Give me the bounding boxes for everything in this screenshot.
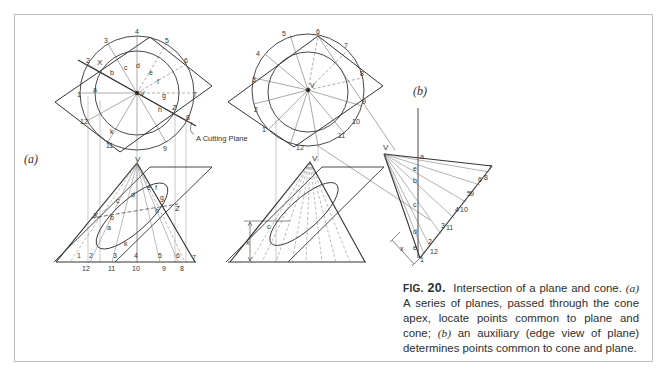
- svg-text:7: 7: [488, 164, 492, 171]
- svg-text:10: 10: [132, 265, 140, 272]
- svg-text:a: a: [107, 224, 111, 231]
- svg-text:12: 12: [430, 248, 438, 255]
- svg-text:8: 8: [180, 265, 184, 272]
- top-view-b: 456 789 101112 321 V: [228, 28, 430, 220]
- svg-text:1: 1: [262, 126, 266, 133]
- svg-text:7: 7: [193, 91, 197, 98]
- svg-text:Z: Z: [172, 103, 177, 112]
- svg-text:7: 7: [344, 42, 348, 49]
- auxiliary-view-b: V aeb cde 765 4321 8910 1112 x: [383, 108, 492, 266]
- front-view-a: V XZ 123 4567 121110 98 abc def ghk: [54, 155, 212, 272]
- svg-text:V: V: [383, 143, 389, 152]
- svg-text:2: 2: [254, 106, 258, 113]
- svg-text:V: V: [310, 82, 315, 89]
- svg-text:k: k: [110, 128, 114, 135]
- svg-text:3: 3: [104, 37, 108, 44]
- svg-text:9: 9: [362, 98, 366, 105]
- svg-text:x: x: [400, 245, 404, 252]
- svg-text:6: 6: [176, 252, 180, 259]
- svg-text:c: c: [267, 223, 271, 230]
- svg-text:5: 5: [165, 37, 169, 44]
- svg-text:10: 10: [460, 206, 468, 213]
- svg-text:h: h: [158, 106, 162, 113]
- svg-text:d: d: [136, 62, 140, 69]
- svg-text:12: 12: [296, 144, 304, 151]
- svg-text:6: 6: [478, 176, 482, 183]
- svg-text:x: x: [246, 239, 250, 246]
- svg-text:d: d: [131, 191, 135, 198]
- svg-text:1: 1: [77, 252, 81, 259]
- svg-text:4: 4: [134, 252, 138, 259]
- svg-text:8: 8: [360, 70, 364, 77]
- front-view-b: V x c: [226, 154, 384, 262]
- svg-text:5: 5: [158, 252, 162, 259]
- subfigure-label-a: (a): [24, 152, 38, 167]
- svg-text:11: 11: [108, 265, 115, 272]
- svg-text:6: 6: [184, 57, 188, 64]
- svg-text:e: e: [147, 184, 151, 191]
- svg-text:k: k: [124, 240, 128, 247]
- subfigure-label-b: (b): [413, 84, 427, 99]
- svg-text:9: 9: [162, 265, 166, 272]
- svg-text:c: c: [116, 197, 120, 204]
- svg-text:e: e: [413, 244, 417, 251]
- svg-text:7: 7: [192, 254, 196, 261]
- caption-a-label: (a): [626, 282, 639, 294]
- svg-text:8: 8: [186, 114, 190, 121]
- svg-text:V: V: [312, 154, 318, 163]
- svg-text:11: 11: [106, 142, 113, 149]
- svg-text:4: 4: [256, 50, 260, 57]
- svg-text:8: 8: [484, 174, 488, 181]
- figure-number: FIG. 20.: [403, 283, 446, 294]
- svg-text:A Cutting Plane: A Cutting Plane: [196, 134, 248, 143]
- svg-text:5: 5: [282, 30, 286, 37]
- svg-text:1: 1: [77, 91, 81, 98]
- svg-text:g: g: [160, 194, 164, 202]
- svg-text:9: 9: [470, 190, 474, 197]
- svg-text:X: X: [97, 58, 103, 67]
- svg-text:12: 12: [82, 265, 90, 272]
- svg-text:11: 11: [446, 224, 453, 231]
- svg-text:a: a: [420, 153, 424, 160]
- svg-text:d: d: [413, 228, 417, 235]
- svg-text:11: 11: [338, 132, 345, 139]
- svg-text:6: 6: [316, 28, 320, 35]
- svg-text:2: 2: [428, 238, 432, 245]
- svg-text:V: V: [135, 155, 141, 164]
- top-view-a: 432 11211 567 89 XZ V abc def ghk A Cutt…: [55, 28, 248, 152]
- svg-text:V: V: [140, 90, 145, 97]
- svg-text:b: b: [110, 69, 114, 76]
- svg-text:9: 9: [163, 145, 167, 152]
- svg-text:10: 10: [352, 118, 360, 125]
- svg-text:h: h: [155, 207, 159, 214]
- svg-text:4: 4: [135, 28, 139, 35]
- svg-text:12: 12: [80, 118, 88, 125]
- svg-text:g: g: [162, 92, 166, 100]
- caption-b-label: (b): [438, 327, 451, 339]
- svg-text:2: 2: [89, 252, 93, 259]
- svg-text:2: 2: [86, 57, 90, 64]
- svg-text:4: 4: [455, 206, 459, 213]
- svg-text:e: e: [149, 69, 153, 76]
- svg-text:c: c: [124, 64, 128, 71]
- svg-text:e: e: [413, 165, 417, 172]
- svg-text:3: 3: [441, 222, 445, 229]
- svg-text:c: c: [413, 201, 417, 208]
- figure-caption: FIG. 20. Intersection of a plane and con…: [403, 281, 639, 356]
- svg-text:f: f: [157, 78, 159, 85]
- svg-text:3: 3: [252, 76, 256, 83]
- svg-text:f: f: [155, 184, 157, 191]
- svg-text:X: X: [93, 211, 99, 220]
- svg-text:b: b: [110, 214, 114, 221]
- caption-title: Intersection of a plane and cone.: [453, 282, 622, 294]
- svg-text:3: 3: [113, 252, 117, 259]
- svg-text:Z: Z: [175, 204, 180, 213]
- svg-text:1: 1: [420, 256, 424, 263]
- svg-text:a: a: [93, 86, 97, 93]
- svg-text:b: b: [413, 177, 417, 184]
